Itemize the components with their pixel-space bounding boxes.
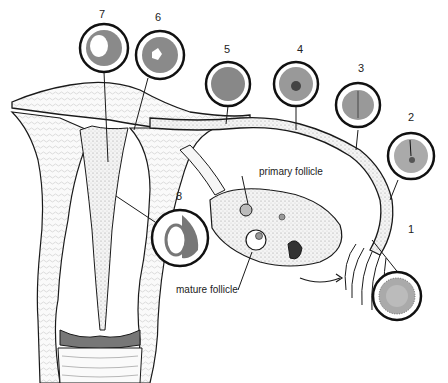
reproductive-tract-diagram: 7 6 5 4 3 2 1 8 primary follicle mature … bbox=[0, 0, 448, 383]
stage-label-6: 6 bbox=[155, 11, 161, 23]
stage-label-5: 5 bbox=[224, 43, 230, 55]
stage-circle-7 bbox=[80, 24, 128, 72]
stage-label-3: 3 bbox=[358, 62, 364, 74]
stage-label-8: 8 bbox=[176, 190, 182, 202]
stage-label-4: 4 bbox=[297, 43, 303, 55]
primary-follicle-label: primary follicle bbox=[259, 166, 323, 177]
stage-circle-1 bbox=[373, 272, 421, 320]
stage-circle-5 bbox=[206, 62, 250, 106]
stage-circle-4 bbox=[274, 62, 318, 106]
mature-follicle-label: mature follicle bbox=[176, 284, 238, 295]
mature-follicle bbox=[246, 230, 266, 250]
diagram-illustration bbox=[0, 0, 448, 383]
stage-label-2: 2 bbox=[408, 111, 414, 123]
stage-circle-3 bbox=[336, 83, 380, 127]
stage-circle-6 bbox=[136, 31, 184, 79]
stage-circle-2 bbox=[388, 133, 434, 179]
stage-label-7: 7 bbox=[99, 8, 105, 20]
primary-follicle bbox=[240, 204, 252, 216]
stage-label-1: 1 bbox=[408, 223, 414, 235]
stage-circle-8 bbox=[152, 210, 208, 266]
